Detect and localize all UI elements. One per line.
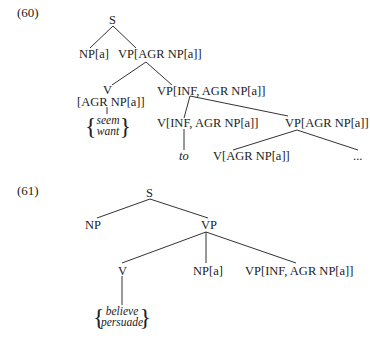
example-number: (60) <box>17 6 39 20</box>
node-np: NP <box>85 218 101 232</box>
right-brace: } <box>119 115 131 137</box>
node-vp-agr: VP[AGR NP[a]] <box>118 47 202 61</box>
node-vp-agr-2: VP[AGR NP[a]] <box>285 116 369 130</box>
node-vp-inf: VP[INF, AGR NP[a]] <box>157 84 265 98</box>
node-v-features: [AGR NP[a]] <box>77 95 145 109</box>
node-np-a: NP[a] <box>79 47 109 61</box>
verb-persuade: persuade <box>99 317 145 328</box>
node-vp-inf: VP[INF, AGR NP[a]] <box>245 264 353 278</box>
node-s: S <box>109 13 116 27</box>
node-v-agr: V[AGR NP[a]] <box>213 149 290 163</box>
left-brace: { <box>93 306 105 328</box>
node-v: V <box>118 264 127 278</box>
verb-set-seem-want: { seem want } <box>89 115 127 139</box>
example-number: (61) <box>17 184 39 198</box>
node-np-a: NP[a] <box>193 264 223 278</box>
node-v-inf: V[INF, AGR NP[a]] <box>157 116 258 130</box>
node-to: to <box>179 149 189 163</box>
verb-set-believe-persuade: { believe persuade } <box>99 306 145 330</box>
node-s: S <box>146 186 153 200</box>
right-brace: } <box>139 306 151 328</box>
node-ellipsis: ... <box>353 149 362 163</box>
left-brace: { <box>85 115 97 137</box>
node-vp: VP <box>201 218 217 232</box>
